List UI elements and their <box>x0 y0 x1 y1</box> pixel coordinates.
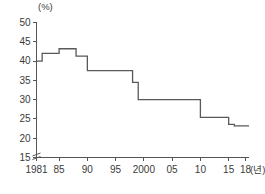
x-tick-label: 90 <box>82 164 94 175</box>
y-tick-label: 30 <box>19 94 31 105</box>
x-tick-label: 10 <box>195 164 207 175</box>
x-axis-tick-labels: 1981859095200005101518 <box>25 164 251 175</box>
y-tick-label: 25 <box>19 113 31 124</box>
y-tick-label: 40 <box>19 55 31 66</box>
y-axis-tick-labels: 1520253035404550 <box>19 17 31 163</box>
chart-svg: 1520253035404550 1981859095200005101518 … <box>0 0 265 194</box>
y-tick-label: 50 <box>19 17 31 28</box>
x-tick-label: 15 <box>223 164 235 175</box>
x-tick-label: 1981 <box>25 164 48 175</box>
x-tick-label: 05 <box>167 164 179 175</box>
y-tick-label: 20 <box>19 133 31 144</box>
y-tick-label: 15 <box>19 152 31 163</box>
x-tick-label: 2000 <box>133 164 156 175</box>
x-axis-unit-label: (년) <box>250 164 265 175</box>
data-series-line <box>37 49 250 126</box>
y-tick-label: 35 <box>19 75 31 86</box>
y-tick-label: 45 <box>19 36 31 47</box>
chart-container: 1520253035404550 1981859095200005101518 … <box>0 0 265 194</box>
y-axis-unit-label: (%) <box>38 1 53 12</box>
x-tick-label: 85 <box>54 164 66 175</box>
x-tick-label: 95 <box>110 164 122 175</box>
